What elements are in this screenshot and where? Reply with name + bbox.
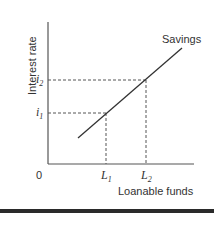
L1-label: L1 <box>101 169 112 184</box>
L2-label: L2 <box>141 169 152 184</box>
i2-label: i2 <box>36 73 43 88</box>
i1-label: i1 <box>36 106 43 121</box>
savings-label: Savings <box>162 34 201 45</box>
origin-label: 0 <box>36 170 42 181</box>
bottom-divider-bar <box>0 209 214 213</box>
savings-line <box>78 48 182 138</box>
x-axis-label: Loanable funds <box>118 186 193 197</box>
